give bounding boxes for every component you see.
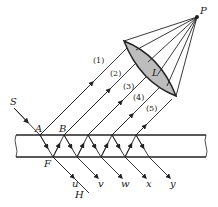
focal-point-P	[195, 15, 199, 19]
label-ray-1: (1)	[93, 56, 104, 65]
label-A: A	[34, 123, 42, 134]
label-ray-2: (2)	[110, 69, 121, 78]
label-L: L	[151, 67, 159, 78]
label-S: S	[10, 96, 17, 107]
label-P: P	[199, 5, 207, 16]
label-H: H	[74, 189, 84, 200]
label-B: B	[58, 123, 66, 134]
thin-plate	[15, 135, 207, 157]
label-ray-5: (5)	[146, 104, 157, 113]
label-y: y	[169, 178, 176, 189]
interference-diagram: P L S A B F H (1) (2) (3) (4) (5) u v w …	[0, 0, 218, 207]
label-ray-3: (3)	[123, 82, 134, 91]
label-w: w	[121, 178, 130, 189]
internal-reflections	[40, 135, 149, 157]
label-F: F	[43, 158, 52, 169]
label-u: u	[72, 178, 78, 189]
label-ray-4: (4)	[133, 93, 144, 102]
label-x: x	[146, 178, 152, 189]
label-v: v	[98, 178, 104, 189]
